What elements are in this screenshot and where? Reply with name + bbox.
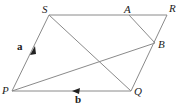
vector-label-a: a bbox=[17, 40, 23, 52]
vertex-label-B: B bbox=[158, 38, 165, 50]
vertex-label-S: S bbox=[42, 3, 48, 15]
vertex-label-Q: Q bbox=[134, 85, 142, 97]
edge-PS bbox=[12, 15, 49, 91]
vertex-label-R: R bbox=[168, 2, 176, 14]
edge-RQ bbox=[131, 15, 167, 91]
diagonal-SQ bbox=[49, 15, 131, 91]
vector-label-b: b bbox=[75, 93, 81, 105]
vertex-label-A: A bbox=[123, 3, 131, 15]
parallelogram-diagram: S A R B P Q a b bbox=[0, 0, 178, 111]
vertex-label-P: P bbox=[1, 84, 9, 96]
segment-AB bbox=[129, 15, 155, 43]
